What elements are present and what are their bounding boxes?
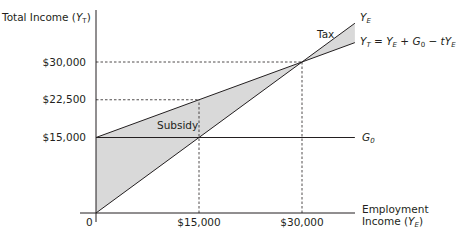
y-axis-title: Total Income (YT) xyxy=(2,11,91,27)
tax-region-label: Tax xyxy=(317,28,334,40)
series-label-ye: YE xyxy=(360,11,371,27)
y-tick-22500: $22,500 xyxy=(0,93,86,105)
series-label-yt-equation: YT = YE + G0 − tYE xyxy=(360,35,456,51)
x-tick-0: 0 xyxy=(86,216,93,228)
y-tick-30000: $30,000 xyxy=(0,56,86,68)
x-axis-title: Employment Income (YE) xyxy=(362,203,429,231)
x-tick-30000: $30,000 xyxy=(280,216,323,228)
plot-area xyxy=(80,10,355,222)
x-tick-15000: $15,000 xyxy=(177,216,220,228)
ye-45-degree-line xyxy=(96,23,355,213)
yt-total-income-line xyxy=(96,43,355,138)
series-label-g0: G0 xyxy=(362,131,375,147)
y-tick-15000: $15,000 xyxy=(0,131,86,143)
subsidy-region-label: Subsidy xyxy=(157,119,198,131)
